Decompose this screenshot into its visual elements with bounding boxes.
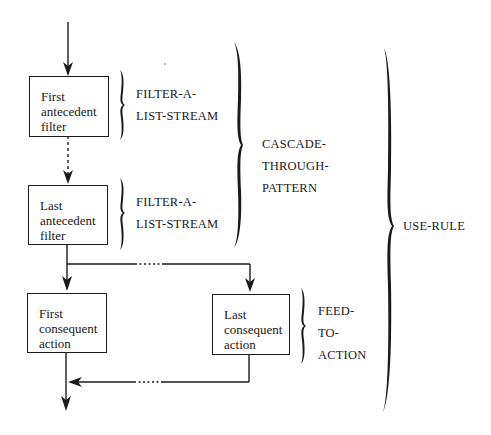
brace-icon <box>120 178 125 250</box>
label-line: LIST-STREAM <box>136 213 218 235</box>
label-line: USE-RULE <box>403 215 465 237</box>
cascade-through-pattern-label: CASCADE- THROUGH- PATTERN <box>262 133 329 199</box>
label-line: LIST-STREAM <box>136 105 218 127</box>
feed-to-action-label: FEED- TO- ACTION <box>318 300 366 366</box>
label-line: FILTER-A- <box>136 83 218 105</box>
label-line: PATTERN <box>262 177 329 199</box>
label-line: FILTER-A- <box>136 191 218 213</box>
box-line: First <box>39 306 106 321</box>
label-line: TO- <box>318 322 366 344</box>
box-line: action <box>224 337 289 352</box>
box-line: antecedent <box>40 213 107 228</box>
label-line: FEED- <box>318 300 366 322</box>
box-line: filter <box>41 119 108 134</box>
box-line: Last <box>224 307 289 322</box>
brace-icon <box>301 288 306 364</box>
box-line: First <box>41 89 108 104</box>
first-antecedent-filter-box: First antecedent filter <box>29 76 109 137</box>
filter-a-list-stream-label-1: FILTER-A- LIST-STREAM <box>136 83 218 127</box>
box-line: consequent <box>224 322 289 337</box>
label-line: ACTION <box>318 344 366 366</box>
box-line: filter <box>40 228 107 243</box>
use-rule-label: USE-RULE <box>403 215 465 237</box>
brace-icon <box>383 48 394 412</box>
diagram-canvas: First antecedent filter Last antecedent … <box>0 0 491 435</box>
label-line: CASCADE- <box>262 133 329 155</box>
first-consequent-action-box: First consequent action <box>27 293 107 353</box>
filter-a-list-stream-label-2: FILTER-A- LIST-STREAM <box>136 191 218 235</box>
brace-icon <box>120 70 125 140</box>
last-antecedent-filter-box: Last antecedent filter <box>28 185 108 245</box>
label-line: THROUGH- <box>262 155 329 177</box>
box-line: consequent <box>39 321 106 336</box>
box-line: action <box>39 336 106 351</box>
box-line: antecedent <box>41 104 108 119</box>
box-line: Last <box>40 198 107 213</box>
last-consequent-action-box: Last consequent action <box>212 294 290 355</box>
brace-icon <box>234 42 243 248</box>
